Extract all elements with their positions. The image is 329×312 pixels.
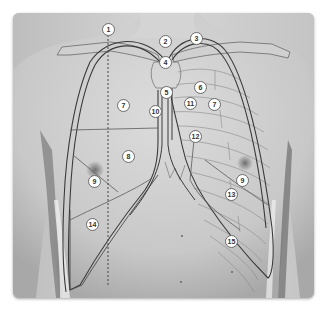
label-13: 13 [225, 188, 238, 201]
label-10: 10 [149, 105, 162, 118]
label-7-left-lung: 7 [208, 98, 221, 111]
label-8: 8 [122, 150, 135, 163]
label-11: 11 [184, 97, 197, 110]
label-layer: 1 2 3 4 5 6 7 10 11 7 12 8 9 9 13 14 15 [13, 13, 314, 298]
label-2: 2 [159, 35, 172, 48]
label-15: 15 [225, 235, 238, 248]
label-4: 4 [159, 56, 172, 69]
label-1: 1 [102, 23, 115, 36]
label-6: 6 [194, 81, 207, 94]
label-14: 14 [86, 218, 99, 231]
diagram-frame: 1 2 3 4 5 6 7 10 11 7 12 8 9 9 13 14 15 [13, 13, 314, 298]
label-3: 3 [190, 32, 203, 45]
label-7-right-lung: 7 [117, 99, 130, 112]
label-12: 12 [189, 130, 202, 143]
label-5: 5 [160, 86, 173, 99]
label-9-right: 9 [88, 175, 101, 188]
label-9-left: 9 [236, 174, 249, 187]
